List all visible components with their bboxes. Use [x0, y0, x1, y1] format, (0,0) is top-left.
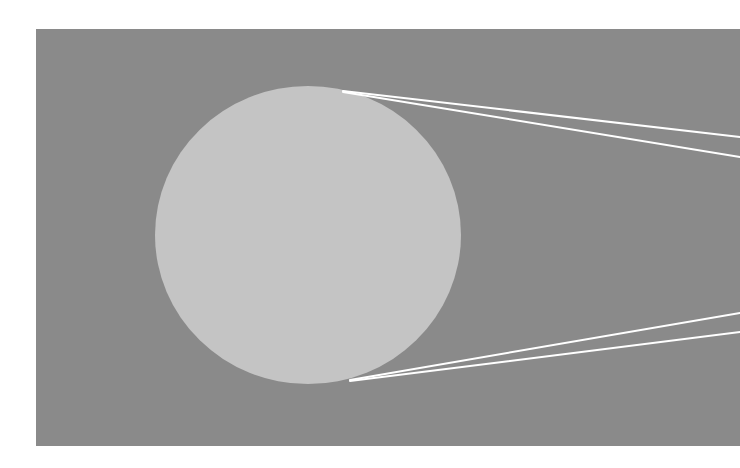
- diagram-figure: [0, 0, 740, 468]
- large-circle: [155, 86, 461, 384]
- diagram-canvas: [0, 0, 740, 468]
